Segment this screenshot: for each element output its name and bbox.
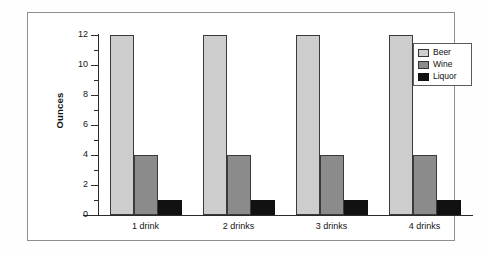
y-tick-minor bbox=[94, 110, 98, 111]
legend-label-wine: Wine bbox=[433, 60, 452, 69]
legend-label-liquor: Liquor bbox=[433, 72, 457, 81]
y-tick-major bbox=[91, 185, 98, 186]
y-tick-major bbox=[91, 35, 98, 36]
y-tick-major bbox=[91, 125, 98, 126]
y-tick-minor bbox=[94, 170, 98, 171]
y-tick-minor bbox=[94, 200, 98, 201]
y-tick-minor bbox=[94, 80, 98, 81]
legend-label-beer: Beer bbox=[433, 48, 451, 57]
chart-frame: Ounces 024681012 1 drink2 drinks3 drinks… bbox=[27, 12, 455, 241]
bar-wine-4 bbox=[413, 155, 437, 215]
x-group-label: 3 drinks bbox=[297, 221, 367, 231]
y-tick-major bbox=[91, 155, 98, 156]
bar-wine-3 bbox=[320, 155, 344, 215]
y-tick-major bbox=[91, 95, 98, 96]
chart-figure: Ounces 024681012 1 drink2 drinks3 drinks… bbox=[0, 0, 482, 257]
y-tick-minor bbox=[94, 140, 98, 141]
bar-beer-1 bbox=[110, 35, 134, 215]
bar-liquor-2 bbox=[251, 200, 275, 215]
chart-legend: Beer Wine Liquor bbox=[413, 43, 472, 86]
legend-item-beer: Beer bbox=[418, 47, 468, 58]
y-tick-label: 12 bbox=[58, 30, 88, 39]
bar-wine-2 bbox=[227, 155, 251, 215]
legend-item-wine: Wine bbox=[418, 59, 468, 70]
bar-wine-1 bbox=[134, 155, 158, 215]
legend-swatch-liquor bbox=[418, 73, 429, 81]
y-tick-label: 6 bbox=[58, 120, 88, 129]
x-group-label: 4 drinks bbox=[390, 221, 460, 231]
y-tick-label: 8 bbox=[58, 90, 88, 99]
legend-item-liquor: Liquor bbox=[418, 71, 468, 82]
bar-beer-4 bbox=[389, 35, 413, 215]
bar-liquor-4 bbox=[437, 200, 461, 215]
y-tick-minor bbox=[94, 50, 98, 51]
y-tick-label: 0 bbox=[58, 210, 88, 219]
y-tick-label: 2 bbox=[58, 180, 88, 189]
bar-liquor-3 bbox=[344, 200, 368, 215]
bar-liquor-1 bbox=[158, 200, 182, 215]
y-tick-major bbox=[91, 215, 98, 216]
bar-beer-2 bbox=[203, 35, 227, 215]
bar-beer-3 bbox=[296, 35, 320, 215]
legend-swatch-wine bbox=[418, 61, 429, 69]
x-group-label: 2 drinks bbox=[204, 221, 274, 231]
y-tick-major bbox=[91, 65, 98, 66]
x-axis-line bbox=[83, 215, 473, 216]
y-tick-label: 4 bbox=[58, 150, 88, 159]
legend-swatch-beer bbox=[418, 49, 429, 57]
x-group-label: 1 drink bbox=[111, 221, 181, 231]
y-axis-title: Ounces bbox=[54, 76, 65, 146]
y-tick-label: 10 bbox=[58, 60, 88, 69]
